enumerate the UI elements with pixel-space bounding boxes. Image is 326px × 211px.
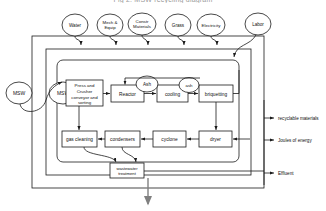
flow-labor-to-system xyxy=(234,35,256,57)
diagram-canvas: Fig 2: MSW recycling diagram xyxy=(0,0,326,211)
process-label-dryer: dryer xyxy=(210,137,221,142)
process-label-cyclone: cyclone xyxy=(161,137,178,142)
process-label-condensers: condensers xyxy=(110,137,135,142)
output-label-recyclable-materials: recyclable materials xyxy=(278,116,319,121)
process-label-wastewater-line2: treatment xyxy=(118,171,137,176)
output-label-effluent: Effluent xyxy=(278,171,294,176)
output-label-joules-of-energy: Joules of energy xyxy=(278,138,312,143)
input-label-mech-equip-line1: Mech & xyxy=(103,20,118,25)
flow-diagram-svg: Water Mech & Equip Constr Materials Gras… xyxy=(0,0,326,211)
process-label-briquetting: briquetting xyxy=(205,92,228,97)
input-label-mech-equip-line2: Equip xyxy=(104,25,116,30)
input-label-labor: Labor xyxy=(252,22,264,27)
process-label-press-crusher-line4: sorting xyxy=(78,100,92,105)
flow-constr-to-system xyxy=(142,35,148,45)
flow-electricity-to-system xyxy=(211,36,217,45)
process-label-cooling: cooling xyxy=(165,92,181,97)
flow-grass-to-system xyxy=(178,36,184,45)
input-label-water: Water xyxy=(69,23,82,28)
process-label-press-crusher-line1: Press and xyxy=(75,83,95,88)
input-label-constr-materials-line1: Constr xyxy=(136,19,149,24)
process-label-press-crusher-line2: Crusher xyxy=(77,89,93,94)
flow-mech-to-system xyxy=(110,36,116,45)
flow-gas-cleaning-to-wastewater xyxy=(84,147,116,162)
process-label-gas-cleaning: gas cleaning xyxy=(66,137,93,142)
byproduct-label-ash-reactor: Ash xyxy=(143,82,151,87)
source-label-msw-outer: MSW xyxy=(13,90,26,96)
system-boundary-outer xyxy=(32,36,264,188)
byproduct-label-ash-cooling: ash xyxy=(185,83,193,88)
system-boundary-inner xyxy=(46,49,251,175)
input-label-grass: Grass xyxy=(172,23,185,28)
flow-condensers-to-wastewater xyxy=(122,147,136,162)
input-label-constr-materials-line2: Materials xyxy=(133,24,152,29)
rail-briquetting-right xyxy=(233,70,239,94)
input-label-electricity: Electricity xyxy=(202,23,222,28)
process-label-reactor: Reactor xyxy=(119,92,136,97)
flow-water-to-system xyxy=(75,36,81,45)
